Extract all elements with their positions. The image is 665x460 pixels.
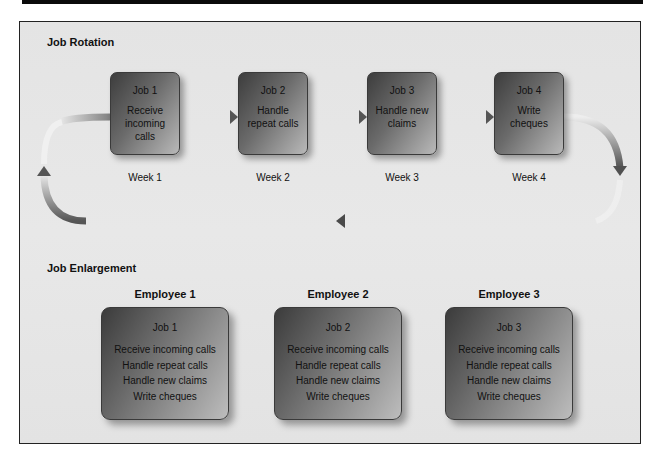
arrowhead-down-icon bbox=[613, 166, 627, 176]
week-label-3: Week 3 bbox=[367, 172, 437, 183]
task-item: Write cheques bbox=[275, 389, 401, 405]
job-name: Job 3 bbox=[368, 85, 436, 96]
rotation-job-box-1: Job 1 Receive incoming calls bbox=[110, 72, 180, 155]
job-task: Write cheques bbox=[495, 104, 563, 130]
task-item: Write cheques bbox=[102, 389, 228, 405]
task-item: Handle repeat calls bbox=[275, 358, 401, 374]
task-item: Handle new claims bbox=[275, 373, 401, 389]
employee-label-1: Employee 1 bbox=[101, 288, 229, 300]
rotation-job-box-4: Job 4 Write cheques bbox=[494, 72, 564, 155]
arrowhead-left-icon bbox=[336, 214, 345, 228]
week-label-2: Week 2 bbox=[238, 172, 308, 183]
enlargement-job-box-1: Job 1 Receive incoming calls Handle repe… bbox=[101, 307, 229, 420]
employee-label-2: Employee 2 bbox=[274, 288, 402, 300]
task-item: Write cheques bbox=[446, 389, 572, 405]
job-name: Job 1 bbox=[102, 322, 228, 333]
job-task: Handle new claims bbox=[368, 104, 436, 130]
job-task: Receive incoming calls bbox=[111, 104, 179, 143]
task-item: Handle new claims bbox=[446, 373, 572, 389]
arrow-segment-start bbox=[60, 117, 110, 122]
task-item: Handle repeat calls bbox=[102, 358, 228, 374]
employee-label-3: Employee 3 bbox=[445, 288, 573, 300]
arrow-curve-left bbox=[44, 175, 86, 221]
enlargement-job-box-2: Job 2 Receive incoming calls Handle repe… bbox=[274, 307, 402, 420]
task-item: Receive incoming calls bbox=[275, 342, 401, 358]
job-rotation-title: Job Rotation bbox=[47, 36, 114, 48]
job-name: Job 4 bbox=[495, 85, 563, 96]
task-item: Handle repeat calls bbox=[446, 358, 572, 374]
task-item: Handle new claims bbox=[102, 373, 228, 389]
job-name: Job 3 bbox=[446, 322, 572, 333]
task-list: Receive incoming calls Handle repeat cal… bbox=[102, 342, 228, 404]
job-enlargement-title: Job Enlargement bbox=[47, 262, 136, 274]
arrowhead-job4-icon bbox=[486, 110, 494, 124]
task-item: Receive incoming calls bbox=[102, 342, 228, 358]
task-list: Receive incoming calls Handle repeat cal… bbox=[446, 342, 572, 404]
week-label-1: Week 1 bbox=[110, 172, 180, 183]
task-item: Receive incoming calls bbox=[446, 342, 572, 358]
arrowhead-job2-icon bbox=[230, 110, 238, 124]
rotation-job-box-3: Job 3 Handle new claims bbox=[367, 72, 437, 155]
rotation-job-box-2: Job 2 Handle repeat calls bbox=[238, 72, 308, 155]
task-list: Receive incoming calls Handle repeat cal… bbox=[275, 342, 401, 404]
week-label-4: Week 4 bbox=[494, 172, 564, 183]
job-name: Job 1 bbox=[111, 85, 179, 96]
arrowhead-up-icon bbox=[37, 166, 51, 176]
job-name: Job 2 bbox=[275, 322, 401, 333]
arrow-curve-right bbox=[564, 117, 620, 168]
job-task: Handle repeat calls bbox=[239, 104, 307, 130]
job-name: Job 2 bbox=[239, 85, 307, 96]
arrowhead-job3-icon bbox=[359, 110, 367, 124]
enlargement-job-box-3: Job 3 Receive incoming calls Handle repe… bbox=[445, 307, 573, 420]
